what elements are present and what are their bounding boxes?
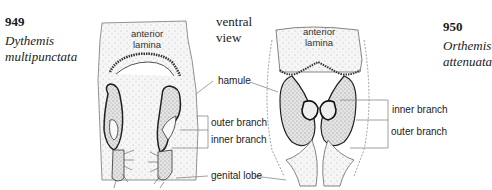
inner-branch-label-right: inner branch bbox=[392, 104, 448, 115]
anterior-lamina-right-line2: lamina bbox=[294, 37, 344, 48]
specimen-950 bbox=[267, 27, 369, 186]
outer-branch-label-left: outer branch bbox=[211, 117, 267, 128]
hamule-label: hamule bbox=[218, 75, 251, 86]
anterior-lamina-right-line1: anterior bbox=[294, 26, 344, 37]
anterior-lamina-label-left: anterior lamina bbox=[122, 28, 172, 50]
anterior-lamina-left-line2: lamina bbox=[122, 39, 172, 50]
genital-lobe-label: genital lobe bbox=[211, 170, 262, 181]
anatomical-illustration bbox=[0, 0, 492, 190]
outer-branch-label-right: outer branch bbox=[391, 126, 447, 137]
anterior-lamina-left-line1: anterior bbox=[122, 28, 172, 39]
inner-branch-label-left: inner branch bbox=[211, 134, 267, 145]
anterior-lamina-label-right: anterior lamina bbox=[294, 26, 344, 48]
